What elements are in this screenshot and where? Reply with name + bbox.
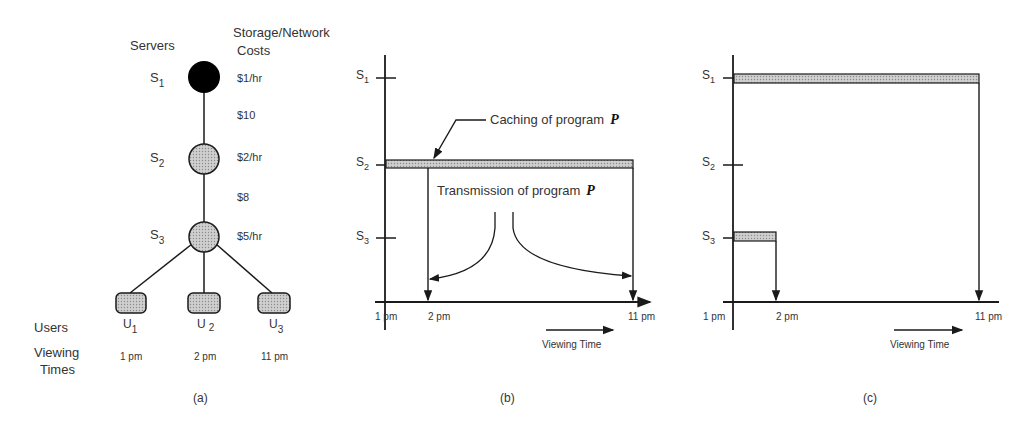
link-s3-u3 bbox=[216, 244, 272, 293]
x-tick-2pm: 2 pm bbox=[776, 311, 798, 322]
link-cost-s1-s2: $10 bbox=[237, 109, 255, 121]
server-s1-label: S1 bbox=[150, 70, 165, 89]
user-u3-time: 11 pm bbox=[261, 351, 288, 362]
panel-c-caching-timeline: S1 S2 S3 1 pm 2 pm 11 pm Viewing Time (c… bbox=[702, 55, 1002, 405]
user-u3-label: U3 bbox=[269, 317, 284, 335]
caption-a: (a) bbox=[193, 391, 208, 405]
link-s3-u1 bbox=[130, 244, 192, 293]
users-label: Users bbox=[34, 320, 68, 335]
viewing-label-line1: Viewing bbox=[34, 345, 79, 360]
server-s3-node bbox=[189, 222, 219, 252]
user-u1-time: 1 pm bbox=[120, 351, 142, 362]
x-axis-label: Viewing Time bbox=[542, 339, 602, 350]
link-cost-s2-s3: $8 bbox=[237, 191, 249, 203]
x-tick-1pm: 1 pm bbox=[703, 311, 725, 322]
caching-callout-arrow bbox=[434, 120, 486, 158]
y-tick-s2: S2 bbox=[356, 155, 369, 172]
x-tick-11pm: 11 pm bbox=[975, 311, 1002, 322]
x-axis-label: Viewing Time bbox=[890, 339, 950, 350]
y-tick-s1: S1 bbox=[356, 68, 369, 85]
server-s2-node bbox=[189, 144, 219, 174]
s2-storage-cost: $2/hr bbox=[237, 151, 262, 163]
costs-header-line2: Costs bbox=[237, 43, 271, 58]
viewing-label-line2: Times bbox=[40, 362, 75, 377]
caption-b: (b) bbox=[500, 391, 515, 405]
x-tick-11pm: 11 pm bbox=[628, 311, 655, 322]
caption-c: (c) bbox=[863, 391, 877, 405]
caching-bar-s1 bbox=[734, 74, 979, 83]
y-tick-s3: S3 bbox=[702, 229, 715, 246]
user-u3-node bbox=[258, 293, 290, 313]
servers-header: Servers bbox=[130, 38, 175, 53]
costs-header-line1: Storage/Network bbox=[233, 25, 330, 40]
user-u2-time: 2 pm bbox=[194, 351, 216, 362]
transmission-label: Transmission of programP bbox=[437, 183, 595, 198]
server-s1-node bbox=[188, 61, 220, 93]
panel-a-network-tree: Servers Storage/Network Costs S1 S2 S3 $… bbox=[34, 25, 330, 405]
caching-label: Caching of programP bbox=[490, 112, 619, 127]
transmission-curve-left bbox=[430, 212, 495, 279]
caching-bar-s2 bbox=[386, 160, 633, 168]
user-u2-label: U2 bbox=[197, 317, 215, 333]
y-tick-s3: S3 bbox=[356, 229, 369, 246]
x-tick-2pm: 2 pm bbox=[428, 311, 450, 322]
user-u1-label: U1 bbox=[123, 317, 138, 335]
y-tick-s1: S1 bbox=[702, 68, 715, 85]
user-u1-node bbox=[116, 293, 146, 313]
s1-storage-cost: $1/hr bbox=[237, 72, 262, 84]
server-s2-label: S2 bbox=[150, 150, 165, 169]
panel-b-caching-timeline: S1 S2 S3 Caching of programP Transmissio… bbox=[356, 55, 655, 405]
transmission-curve-right bbox=[513, 212, 631, 276]
caching-bar-s3 bbox=[734, 232, 776, 241]
y-tick-s2: S2 bbox=[702, 155, 715, 172]
server-s3-label: S3 bbox=[150, 227, 165, 246]
s3-storage-cost: $5/hr bbox=[237, 230, 262, 242]
diagram-canvas: Servers Storage/Network Costs S1 S2 S3 $… bbox=[0, 0, 1034, 422]
x-tick-1pm: 1 pm bbox=[375, 311, 397, 322]
user-u2-node bbox=[188, 293, 220, 313]
